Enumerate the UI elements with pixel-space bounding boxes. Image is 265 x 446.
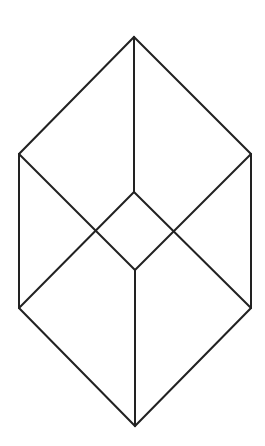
inner-top-to-right-lower-line <box>134 192 251 308</box>
diagram-svg <box>0 0 265 446</box>
inner-top-to-left-lower-line <box>19 192 134 308</box>
inner-segments <box>19 37 251 426</box>
right-upper-to-inner-bottom-line <box>135 154 251 270</box>
left-upper-to-inner-bottom-line <box>19 154 135 270</box>
hexagon-diagram <box>0 0 265 446</box>
